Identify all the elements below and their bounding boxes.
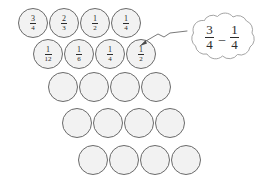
thought-bubble: 3 4 – 1 4	[178, 7, 266, 67]
numerator: 2	[61, 15, 67, 25]
bubble-left-denominator: 4	[205, 38, 214, 52]
bubble-fraction-right: 1 4	[230, 23, 239, 51]
denominator: 6	[76, 55, 82, 63]
numerator: 1	[76, 46, 82, 56]
bubble-right-numerator: 1	[230, 23, 239, 38]
empty-circle[interactable]	[79, 72, 109, 102]
empty-circle[interactable]	[93, 108, 123, 138]
empty-circle[interactable]	[124, 108, 154, 138]
fraction: 34	[30, 15, 36, 32]
numerator: 3	[30, 15, 36, 25]
fraction: 23	[61, 15, 67, 32]
fraction-circle[interactable]: 23	[49, 8, 79, 38]
numerator: 1	[123, 15, 129, 25]
bubble-fraction-left: 3 4	[205, 23, 214, 51]
empty-circle[interactable]	[110, 72, 140, 102]
empty-circle[interactable]	[109, 145, 139, 175]
fraction-circle[interactable]: 12	[80, 8, 110, 38]
fraction: 16	[76, 46, 82, 63]
fraction-circle[interactable]: 34	[18, 8, 48, 38]
numerator: 1	[92, 15, 98, 25]
fraction: 112	[45, 46, 52, 63]
fraction-circle[interactable]: 112	[33, 39, 63, 69]
empty-circle[interactable]	[171, 145, 201, 175]
bubble-right-denominator: 4	[230, 38, 239, 52]
empty-circle[interactable]	[62, 108, 92, 138]
denominator: 3	[61, 24, 67, 32]
fraction-circle[interactable]: 14	[95, 39, 125, 69]
denominator: 12	[45, 55, 52, 63]
empty-circle[interactable]	[78, 145, 108, 175]
bubble-operator: –	[219, 32, 226, 45]
fraction: 12	[92, 15, 98, 32]
denominator: 2	[138, 55, 144, 63]
fraction: 14	[123, 15, 129, 32]
empty-circle[interactable]	[140, 145, 170, 175]
denominator: 2	[92, 24, 98, 32]
fraction-circles-diagram: 34231214112161412 3 4 – 1 4	[0, 0, 270, 184]
empty-circle[interactable]	[48, 72, 78, 102]
numerator: 1	[107, 46, 113, 56]
numerator: 1	[45, 46, 52, 56]
bubble-expression: 3 4 – 1 4	[178, 7, 266, 67]
empty-circle[interactable]	[155, 108, 185, 138]
denominator: 4	[123, 24, 129, 32]
empty-circle[interactable]	[141, 72, 171, 102]
denominator: 4	[30, 24, 36, 32]
fraction-circle[interactable]: 16	[64, 39, 94, 69]
denominator: 4	[107, 55, 113, 63]
bubble-left-numerator: 3	[205, 23, 214, 38]
fraction: 14	[107, 46, 113, 63]
